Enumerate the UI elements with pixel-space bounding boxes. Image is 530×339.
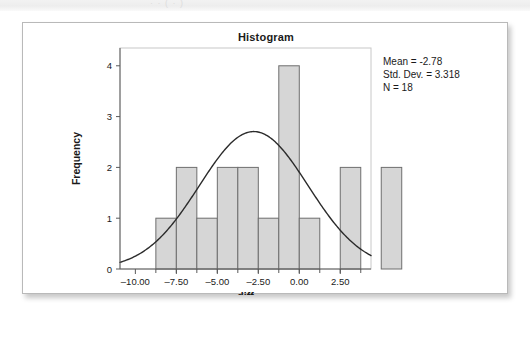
histogram-bar (299, 218, 319, 269)
page-top-remnant-strip: · · ( · ) (0, 0, 530, 11)
x-tick-label: –10.00 (121, 276, 150, 287)
x-tick-label: –2.50 (246, 276, 270, 287)
x-axis-title: diff (237, 290, 254, 295)
y-tick-label: 0 (107, 264, 112, 275)
histogram-bar (381, 167, 401, 269)
x-tick-label: 2.50 (331, 276, 350, 287)
histogram-bar (156, 218, 176, 269)
histogram-figure-card: Histogram 01234 –10.00–7.50–5.00–2.500.0… (22, 22, 508, 294)
stat-mean-label: Mean = -2.78 (383, 56, 443, 67)
statistics-annotation: Mean = -2.78 Std. Dev. = 3.318 N = 18 (383, 56, 460, 93)
histogram-bar (238, 167, 258, 269)
y-tick-label: 2 (107, 162, 112, 173)
y-axis-title: Frequency (70, 132, 82, 185)
histogram-bar (176, 167, 196, 269)
histogram-bar (197, 218, 217, 269)
x-tick-label: –5.00 (205, 276, 229, 287)
histogram-bar (340, 167, 360, 269)
x-tick-label: –7.50 (164, 276, 188, 287)
x-axis-ticks: –10.00–7.50–5.00–2.500.002.50 (121, 269, 361, 287)
remnant-ghost-text: · · ( · ) (150, 0, 184, 8)
y-tick-label: 1 (107, 213, 112, 224)
histogram-bar (217, 167, 237, 269)
stat-n-label: N = 18 (383, 82, 413, 93)
y-axis-ticks: 01234 (107, 60, 120, 274)
histogram-bar (258, 218, 278, 269)
y-tick-label: 3 (107, 111, 112, 122)
y-tick-label: 4 (107, 60, 112, 71)
stat-stddev-label: Std. Dev. = 3.318 (383, 69, 460, 80)
x-tick-label: 0.00 (290, 276, 309, 287)
histogram-plot: 01234 –10.00–7.50–5.00–2.500.002.50 Freq… (23, 23, 509, 295)
